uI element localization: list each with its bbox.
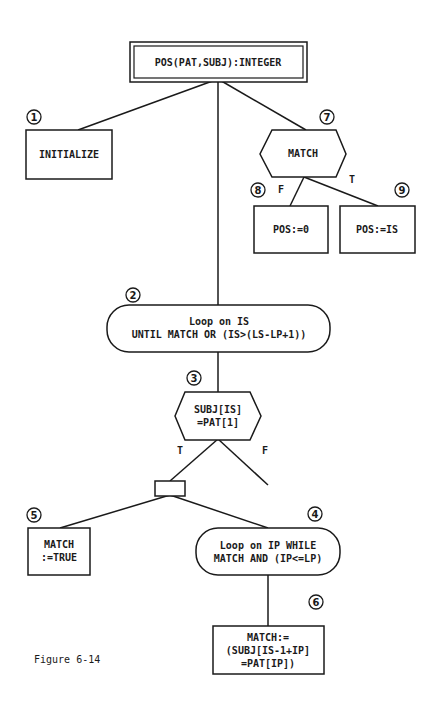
branch-label-true: T: [177, 445, 183, 456]
step-number: 5: [31, 510, 38, 521]
node-pos-is: 9 POS:=IS: [340, 183, 415, 253]
node-label: MATCH: [288, 148, 318, 159]
figure-caption: Figure 6-14: [34, 654, 100, 665]
node-initialize: 1 INITIALIZE: [26, 110, 112, 179]
node-label-line-1: Loop on IS: [189, 316, 249, 327]
node-label-line-2: :=TRUE: [41, 552, 77, 563]
node-label-line-2: UNTIL MATCH OR (IS>(LS-LP+1)): [132, 329, 307, 340]
node-label-line-1: SUBJ[IS]: [194, 404, 242, 415]
step-number: 7: [324, 112, 331, 123]
node-label-line-1: MATCH:=: [247, 632, 289, 643]
node-pos-zero: 8 POS:=0: [251, 183, 328, 253]
node-label-line-3: =PAT[IP]): [241, 658, 295, 669]
step-number: 1: [31, 112, 38, 123]
step-number: 2: [130, 290, 137, 301]
step-number: 6: [313, 597, 320, 608]
step-number: 3: [191, 373, 198, 384]
node-label: POS:=IS: [356, 224, 398, 235]
node-loop-ip: 4 Loop on IP WHILE MATCH AND (IP<=LP): [196, 507, 340, 575]
step-number: 8: [255, 185, 262, 196]
edge-seq-to-match-true: [60, 495, 170, 528]
node-label-line-2: MATCH AND (IP<=LP): [214, 553, 322, 564]
edge-root-to-match: [218, 79, 306, 130]
branch-label-false: F: [262, 445, 268, 456]
node-label-line-1: MATCH: [44, 539, 74, 550]
node-label-line-2: (SUBJ[IS-1+IP]: [226, 645, 310, 656]
node-label-line-2: =PAT[1]: [197, 417, 239, 428]
structure-chart: POS(PAT,SUBJ):INTEGER 1 INITIALIZE 7 MAT…: [0, 0, 442, 703]
sequence-connector: [155, 481, 185, 496]
edge-match-false: [290, 177, 304, 206]
node-label: POS:=0: [273, 224, 309, 235]
root-title: POS(PAT,SUBJ):INTEGER: [155, 57, 282, 68]
step-number: 9: [399, 185, 406, 196]
node-match-decision: 7 MATCH: [260, 110, 346, 177]
step-number: 4: [312, 509, 319, 520]
edge-seq-to-loop-ip: [170, 495, 268, 528]
edge-root-to-initialize: [78, 79, 218, 130]
node-label: INITIALIZE: [39, 149, 99, 160]
root-node: POS(PAT,SUBJ):INTEGER: [130, 42, 307, 82]
node-label-line-1: Loop on IP WHILE: [220, 540, 316, 551]
branch-label-true: T: [349, 174, 355, 185]
edge-match-true: [304, 177, 378, 206]
branch-label-false: F: [278, 184, 284, 195]
edge-condition-false: [218, 439, 268, 485]
node-match-true: 5 MATCH :=TRUE: [27, 508, 90, 575]
